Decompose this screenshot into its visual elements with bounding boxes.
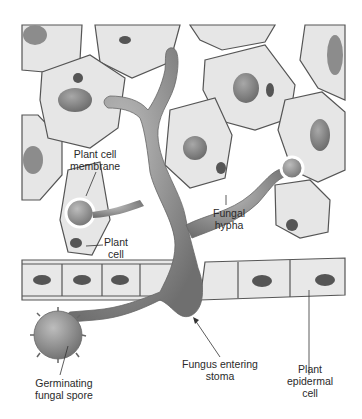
haustorium-right	[281, 157, 303, 179]
label-germinating-spore: Germinating fungal spore	[35, 377, 93, 401]
diagram-illustration	[0, 0, 362, 419]
label-plant-epidermal-cell: Plant epidermal cell	[287, 363, 333, 399]
label-fungus-entering-stoma: Fungus entering stoma	[182, 358, 258, 382]
label-fungal-hypha: Fungal hypha	[213, 207, 245, 231]
label-plant-cell-membrane: Plant cell membrane	[70, 148, 120, 172]
label-plant-cell: Plant cell	[104, 236, 128, 260]
haustorium-left	[66, 199, 94, 227]
